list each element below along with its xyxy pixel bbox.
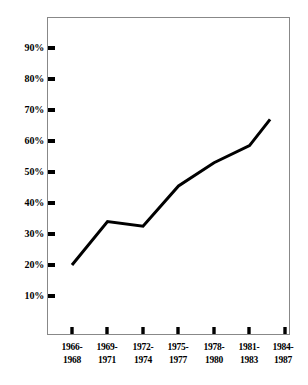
x-tick-label-line2: 1987 — [261, 354, 305, 367]
y-tick-label: 80% — [2, 74, 44, 84]
plot-area-frame — [47, 17, 290, 335]
caption-partial — [0, 377, 308, 385]
y-tick-label: 30% — [2, 229, 44, 239]
y-tick-label: 50% — [2, 167, 44, 177]
y-tick-label: 90% — [2, 43, 44, 53]
x-axis-tick-labels: 1966- 1968 1969- 1971 1972- 1974 1975- 1… — [0, 341, 308, 375]
y-tick-label: 10% — [2, 291, 44, 301]
x-tick-label-line1: 1984- — [261, 341, 305, 354]
y-tick-label: 20% — [2, 260, 44, 270]
y-axis-tick-labels: 90% 80% 70% 60% 50% 40% 30% 20% 10% — [0, 0, 44, 385]
x-tick-label: 1984- 1987 — [261, 341, 305, 367]
y-tick-label: 70% — [2, 105, 44, 115]
y-tick-label: 60% — [2, 136, 44, 146]
line-chart: 90% 80% 70% 60% 50% 40% 30% 20% 10% — [0, 0, 308, 385]
y-tick-label: 40% — [2, 198, 44, 208]
